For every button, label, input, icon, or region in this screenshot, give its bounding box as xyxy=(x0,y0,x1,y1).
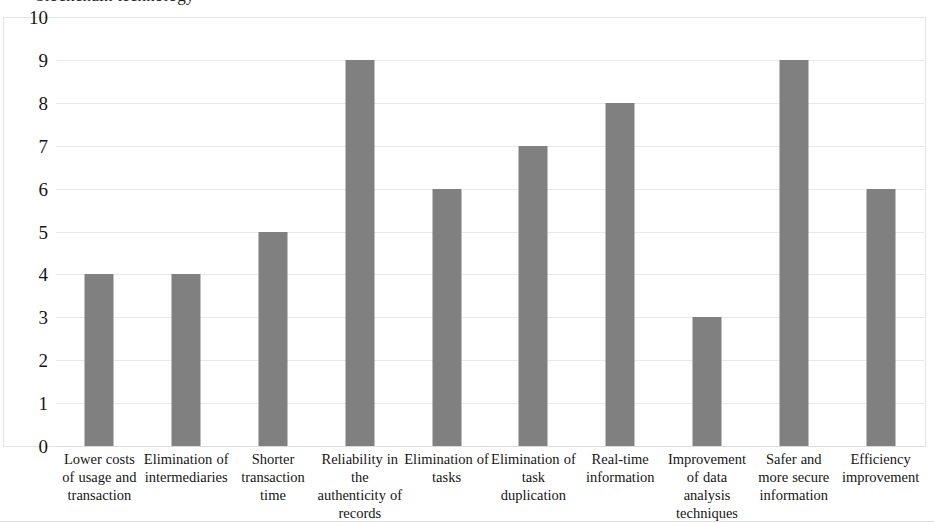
x-axis-category-label: Elimination of tasks xyxy=(403,450,490,486)
bar-slot xyxy=(750,17,837,446)
y-axis-tick-label: 1 xyxy=(39,394,49,413)
y-axis-tick-label: 8 xyxy=(39,93,49,112)
bars-layer xyxy=(56,17,924,446)
bar[interactable] xyxy=(345,60,374,446)
chart-screenshot: blockchain technology 109876543210 Lower… xyxy=(0,0,934,523)
x-axis-category-label: Reliability in the authenticity of recor… xyxy=(316,450,403,522)
bar[interactable] xyxy=(519,146,548,446)
bar-slot xyxy=(664,17,751,446)
x-axis-category-label: Elimination of task duplication xyxy=(490,450,577,504)
chart-title: blockchain technology xyxy=(36,0,195,6)
x-axis-category-label: Improvement of data analysis techniques xyxy=(664,450,751,522)
bar[interactable] xyxy=(866,189,895,446)
bar-slot xyxy=(837,17,924,446)
y-axis-tick-label: 10 xyxy=(29,8,48,27)
bar-slot xyxy=(403,17,490,446)
x-axis-category-label: Shorter transaction time xyxy=(230,450,317,504)
bar-slot xyxy=(143,17,230,446)
bar-slot xyxy=(316,17,403,446)
y-axis-tick-label: 6 xyxy=(39,179,49,198)
y-axis-tick-label: 4 xyxy=(39,265,49,284)
y-axis-tick-label: 3 xyxy=(39,308,49,327)
y-axis-tick-label: 7 xyxy=(39,136,49,155)
bar[interactable] xyxy=(85,274,114,446)
bar[interactable] xyxy=(258,232,287,447)
x-axis-category-label: Real-time information xyxy=(577,450,664,486)
bar[interactable] xyxy=(779,60,808,446)
bar[interactable] xyxy=(692,317,721,446)
y-axis-tick-label: 5 xyxy=(39,222,49,241)
y-axis-tick-label: 0 xyxy=(39,437,49,456)
x-axis-category-label: Safer and more secure information xyxy=(750,450,837,504)
y-axis-tick-label: 2 xyxy=(39,351,49,370)
y-axis-tick-label: 9 xyxy=(39,50,49,69)
x-axis-category-label: Lower costs of usage and transaction xyxy=(56,450,143,504)
bar-slot xyxy=(56,17,143,446)
x-axis-category-label: Efficiency improvement xyxy=(837,450,924,486)
gridline xyxy=(56,446,924,447)
x-axis: Lower costs of usage and transactionElim… xyxy=(56,450,924,520)
bar[interactable] xyxy=(172,274,201,446)
bar-slot xyxy=(577,17,664,446)
bar[interactable] xyxy=(432,189,461,446)
bar[interactable] xyxy=(606,103,635,446)
bar-slot xyxy=(490,17,577,446)
bar-slot xyxy=(230,17,317,446)
y-axis: 109876543210 xyxy=(0,17,56,446)
bottom-divider xyxy=(0,521,934,522)
x-axis-category-label: Elimination of intermediaries xyxy=(143,450,230,486)
